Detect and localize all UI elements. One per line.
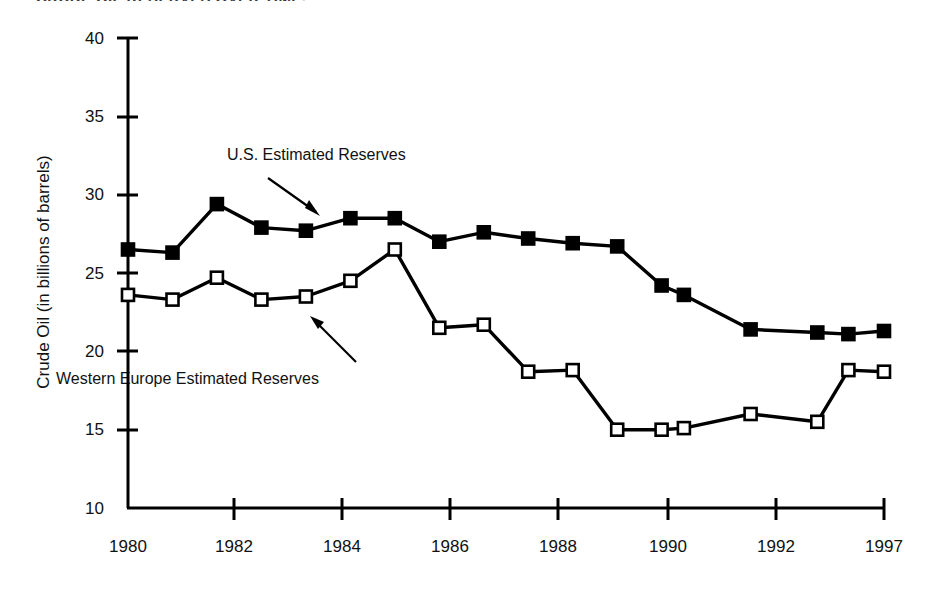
data-point-marker [745,323,757,335]
data-point-marker [842,328,854,340]
series-line [128,250,884,430]
data-point-marker [611,240,623,252]
data-point-marker [478,319,490,331]
data-point-marker [522,366,534,378]
data-point-marker [433,322,445,334]
annotation-arrow-us [268,178,320,216]
data-point-marker [344,212,356,224]
data-point-marker [656,280,668,292]
data-point-marker [478,226,490,238]
data-point-marker [433,236,445,248]
data-point-marker [878,325,890,337]
data-point-marker [811,327,823,339]
data-point-marker [389,212,401,224]
data-point-marker [255,222,267,234]
data-point-marker [300,225,312,237]
data-point-marker [255,294,267,306]
chart-figure: CRUDE OIL RESERVES OVER TIME. Crude Oil … [0,0,935,595]
data-point-marker [389,244,401,256]
data-point-marker [678,422,690,434]
data-point-marker [678,289,690,301]
annotation-arrow-western-europe [310,316,356,362]
data-point-marker [167,294,179,306]
data-point-marker [300,291,312,303]
data-point-marker [878,366,890,378]
data-point-marker [567,237,579,249]
data-point-marker [122,289,134,301]
data-point-marker [344,275,356,287]
series-line [128,204,884,334]
data-point-marker [745,408,757,420]
data-point-marker [522,233,534,245]
data-point-marker [122,244,134,256]
data-point-marker [211,272,223,284]
series-western-europe-estimated-reserves [122,244,890,436]
data-point-marker [842,364,854,376]
series-us-estimated-reserves [122,198,890,340]
data-point-marker [167,247,179,259]
plot-area [0,0,935,595]
data-point-marker [211,198,223,210]
data-point-marker [611,424,623,436]
data-point-marker [567,364,579,376]
data-point-marker [811,416,823,428]
data-point-marker [656,424,668,436]
